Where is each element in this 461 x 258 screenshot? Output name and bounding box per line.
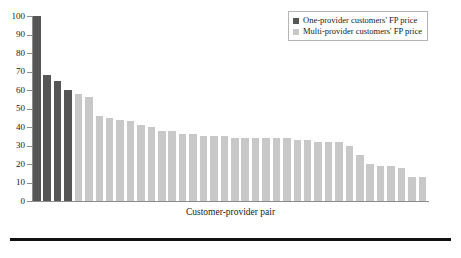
bar (75, 94, 83, 201)
bar (148, 127, 156, 201)
bar (33, 16, 41, 201)
bar-series (33, 16, 429, 201)
bar (408, 177, 416, 201)
bar (137, 125, 145, 201)
bar (314, 142, 322, 201)
y-axis-tick (27, 72, 32, 73)
bar (106, 118, 114, 201)
bar (262, 138, 270, 201)
y-axis-tick-label: 90 (1, 30, 25, 39)
y-axis-tick-label: 60 (1, 86, 25, 95)
bar (43, 75, 51, 201)
y-axis-tick (27, 16, 32, 17)
bottom-rule-divider (10, 238, 451, 241)
y-axis-tick (27, 127, 32, 128)
y-axis-tick (27, 201, 32, 202)
bar (168, 131, 176, 201)
x-axis-line (32, 201, 429, 202)
y-axis-tick-label: 70 (1, 67, 25, 76)
bar (398, 168, 406, 201)
x-axis-title: Customer-provider pair (0, 206, 461, 218)
y-axis-tick-label: 30 (1, 141, 25, 150)
chart-legend: One-provider customers' FP price Multi-p… (288, 11, 428, 41)
bar (252, 138, 260, 201)
bar (241, 138, 249, 201)
bar (221, 136, 229, 201)
legend-swatch-icon (293, 18, 299, 24)
bar (419, 177, 427, 201)
y-axis-tick (27, 35, 32, 36)
bar (127, 121, 135, 201)
bar (200, 136, 208, 201)
bar (273, 138, 281, 201)
bar (158, 131, 166, 201)
bar (96, 116, 104, 201)
y-axis-tick-label: 100 (1, 12, 25, 21)
bar (189, 134, 197, 201)
bar (387, 166, 395, 201)
bar (356, 155, 364, 201)
legend-item-one-provider: One-provider customers' FP price (293, 15, 422, 26)
y-axis-tick-label: 50 (1, 104, 25, 113)
y-axis-tick-label: 80 (1, 49, 25, 58)
bar (54, 81, 62, 201)
y-axis-labels: 0102030405060708090100 (0, 0, 25, 258)
bar (346, 146, 354, 202)
bar (64, 90, 72, 201)
bar (210, 136, 218, 201)
y-axis-tick-label: 0 (1, 197, 25, 206)
y-axis-tick-label: 20 (1, 160, 25, 169)
legend-label: One-provider customers' FP price (303, 15, 417, 26)
chart-figure: 0102030405060708090100 Customer-provider… (0, 0, 461, 258)
bar (294, 140, 302, 201)
y-axis-tick (27, 183, 32, 184)
y-axis-tick (27, 53, 32, 54)
bar (231, 138, 239, 201)
y-axis-tick (27, 146, 32, 147)
legend-item-multi-provider: Multi-provider customers' FP price (293, 26, 422, 37)
bar (377, 166, 385, 201)
bar (366, 164, 374, 201)
bar (304, 140, 312, 201)
y-axis-tick-label: 40 (1, 123, 25, 132)
bar (179, 134, 187, 201)
legend-swatch-icon (293, 29, 299, 35)
bar (116, 120, 124, 201)
y-axis-tick (27, 90, 32, 91)
y-axis-tick (27, 164, 32, 165)
y-axis-tick (27, 109, 32, 110)
bar (283, 138, 291, 201)
legend-label: Multi-provider customers' FP price (303, 26, 422, 37)
bar (85, 97, 93, 201)
bar (335, 142, 343, 201)
y-axis-tick-label: 10 (1, 178, 25, 187)
bar (325, 142, 333, 201)
